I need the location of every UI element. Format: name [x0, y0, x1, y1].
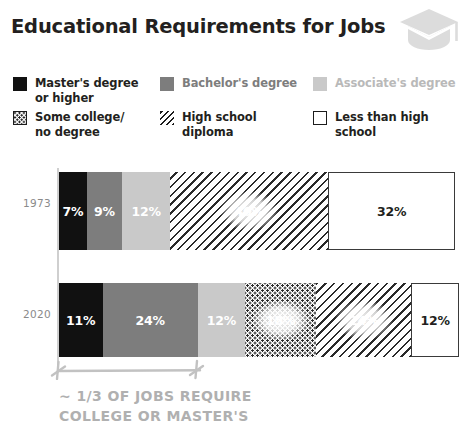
legend-item-label: Less than high school [335, 110, 471, 139]
bar-segment-value: 24% [135, 313, 164, 328]
legend-item-label: High school diploma [182, 110, 310, 139]
legend-item-label: Associate's degree [335, 76, 455, 91]
bar-segment-bachelor[interactable]: 9% [87, 172, 123, 250]
bar-row-label-1973: 1973 [18, 197, 51, 209]
double-headed-arrow-icon [50, 358, 210, 380]
white-outline-swatch-icon [313, 111, 327, 125]
annotation-text: ~ 1/3 OF JOBS REQUIRE COLLEGE OR MASTER'… [59, 386, 252, 426]
bar-segment-value: 24% [349, 313, 378, 328]
chart-legend: Master's degree or higher Bachelor's deg… [0, 72, 473, 152]
bar-segment-master[interactable]: 7% [59, 172, 87, 250]
legend-item-some-college[interactable]: Some college/ no degree [13, 110, 163, 139]
legend-item-label: Bachelor's degree [182, 76, 297, 91]
bar-segment-value: 9% [94, 204, 115, 219]
bar-segment-high-school-diploma[interactable]: 40% [170, 172, 328, 250]
bar-segment-value: 7% [62, 204, 83, 219]
solid-light-gray-swatch-icon [313, 77, 327, 91]
bar-segment-associate[interactable]: 12% [122, 172, 170, 250]
chart-header: Educational Requirements for Jobs [0, 0, 473, 66]
bar-segment-value: 18% [266, 313, 295, 328]
dotted-pattern-swatch-icon [13, 111, 27, 125]
bar-segment-high-school-diploma[interactable]: 24% [316, 283, 411, 357]
bar-segment-bachelor[interactable]: 24% [103, 283, 198, 357]
legend-item-label: Some college/ no degree [35, 110, 124, 139]
bar-segment-value: 12% [420, 313, 449, 328]
diagonal-stripe-swatch-icon [160, 111, 174, 125]
stacked-bar-2020: 11% 24% 12% 18% 24% 12% [59, 283, 455, 357]
bar-segment-master[interactable]: 11% [59, 283, 103, 357]
bar-segment-less-than-high-school[interactable]: 32% [328, 172, 455, 250]
bar-segment-some-college[interactable]: 18% [245, 283, 316, 357]
legend-item-associate[interactable]: Associate's degree [313, 76, 468, 91]
solid-gray-swatch-icon [160, 77, 174, 91]
legend-item-less-than-high-school[interactable]: Less than high school [313, 110, 471, 139]
bar-segment-value: 12% [131, 204, 160, 219]
bar-row: 2020 11% 24% 12% 18% 24% 12% [0, 275, 473, 357]
stacked-bar-1973: 7% 9% 12% 40% 32% [59, 172, 455, 250]
page-title: Educational Requirements for Jobs [11, 15, 385, 38]
bar-row-label-2020: 2020 [18, 308, 51, 320]
bar-segment-less-than-high-school[interactable]: 12% [411, 283, 459, 357]
bar-segment-value: 12% [207, 313, 236, 328]
bar-segment-value: 11% [66, 313, 95, 328]
stacked-bar-chart: 1973 7% 9% 12% 40% 32% 2020 11% [0, 160, 473, 370]
legend-item-label: Master's degree or higher [35, 76, 138, 105]
bar-row: 1973 7% 9% 12% 40% 32% [0, 164, 473, 246]
bar-segment-associate[interactable]: 12% [198, 283, 246, 357]
solid-black-swatch-icon [13, 77, 27, 91]
bar-segment-value: 32% [377, 204, 406, 219]
chart-annotation: ~ 1/3 OF JOBS REQUIRE COLLEGE OR MASTER'… [0, 358, 473, 447]
graduation-cap-icon [398, 6, 460, 52]
legend-item-high-school-diploma[interactable]: High school diploma [160, 110, 310, 139]
bar-segment-value: 40% [234, 204, 263, 219]
legend-item-bachelor[interactable]: Bachelor's degree [160, 76, 310, 91]
legend-item-master[interactable]: Master's degree or higher [13, 76, 163, 105]
